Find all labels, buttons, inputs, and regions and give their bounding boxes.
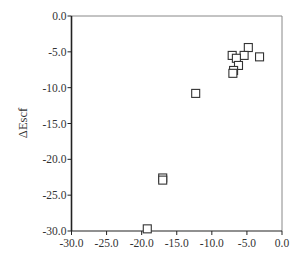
data-points (143, 44, 263, 233)
data-point-square (240, 51, 248, 59)
data-point-square (229, 69, 237, 77)
y-tick-label: -30.0 (43, 225, 67, 237)
y-tick-label: -25.0 (43, 189, 67, 201)
y-axis: 0.0-5.0-10.0-15.0-20.0-25.0-30.0 (43, 10, 72, 237)
y-axis-label: ΔEscf (16, 107, 30, 138)
x-tick-label: -20.0 (130, 237, 154, 249)
x-tick-label: -10.0 (200, 237, 224, 249)
x-tick-label: -15.0 (165, 237, 189, 249)
scatter-chart: -30.0-25.0-20.0-15.0-10.0-5.00.0 0.0-5.0… (0, 0, 303, 263)
y-tick-label: -5.0 (48, 46, 66, 58)
y-tick-label: 0.0 (52, 10, 67, 22)
y-tick-label: -20.0 (43, 153, 67, 165)
data-point-square (192, 89, 200, 97)
x-axis: -30.0-25.0-20.0-15.0-10.0-5.00.0 (60, 231, 290, 249)
data-point-square (256, 53, 264, 61)
y-tick-label: -10.0 (43, 82, 67, 94)
data-point-square (143, 225, 151, 233)
x-tick-label: -30.0 (60, 237, 84, 249)
y-tick-label: -15.0 (43, 118, 67, 130)
data-point-square (159, 176, 167, 184)
x-tick-label: -5.0 (238, 237, 256, 249)
x-tick-label: 0.0 (275, 237, 290, 249)
x-tick-label: -25.0 (95, 237, 119, 249)
data-point-square (244, 44, 252, 52)
